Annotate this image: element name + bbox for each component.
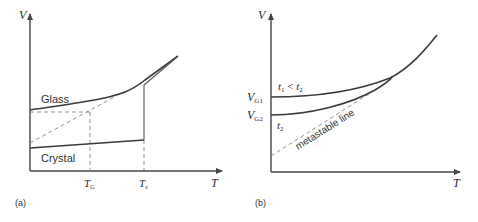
crystal-line xyxy=(30,140,144,148)
y-axis-label: V xyxy=(258,8,267,22)
crystal-label: Crystal xyxy=(41,152,75,164)
x-axis-label: T xyxy=(211,176,219,190)
t1-less-than-t2: t1 < t2 xyxy=(278,80,303,94)
vg1-label: VG1 xyxy=(247,90,263,105)
panel-b: V T VG1 VG2 t1 < t2 t2 metastable line (… xyxy=(247,8,461,208)
t2-label: t2 xyxy=(277,119,284,133)
panel-b-label: (b) xyxy=(255,198,266,208)
panel-a-label: (a) xyxy=(15,198,26,208)
vg2-label: VG2 xyxy=(247,108,263,123)
liquid-line xyxy=(144,58,176,85)
x-axis-label: T xyxy=(453,176,461,190)
glass-label: Glass xyxy=(41,93,70,105)
tick-ts: Ts xyxy=(139,177,148,190)
y-axis-label: V xyxy=(19,8,28,22)
tick-tg: TG xyxy=(84,177,95,190)
figure: V T Glass Crystal TG Ts (a) V T VG1 VG2 … xyxy=(0,0,478,222)
panel-a: V T Glass Crystal TG Ts (a) xyxy=(15,8,222,208)
